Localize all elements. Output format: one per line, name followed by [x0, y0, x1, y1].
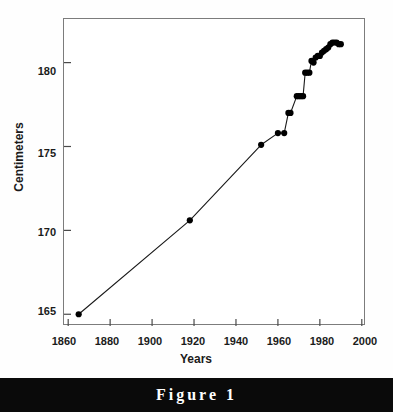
x-tick-label: 1960	[259, 336, 299, 347]
x-tick-label: 1980	[302, 336, 342, 347]
x-tick-label: 1860	[44, 336, 84, 347]
figure-caption-text: Figure 1	[156, 386, 237, 404]
y-tick-label: 165	[22, 306, 56, 317]
x-axis-title: Years	[146, 352, 246, 366]
y-tick-label: 170	[22, 227, 56, 238]
plot-svg	[64, 19, 366, 326]
x-tick-label: 1940	[216, 336, 256, 347]
x-tick-label: 1900	[130, 336, 170, 347]
x-tick-label: 1920	[173, 336, 213, 347]
plot-area	[63, 18, 365, 325]
x-tick-label: 1880	[87, 336, 127, 347]
figure-container: Centimeters Years 180 175 170 165 1860 1…	[0, 0, 393, 412]
y-tick-label: 175	[22, 148, 56, 159]
y-tick-label: 180	[22, 66, 56, 77]
x-tick-label: 2000	[345, 336, 385, 347]
figure-caption-bar: Figure 1	[0, 378, 393, 412]
